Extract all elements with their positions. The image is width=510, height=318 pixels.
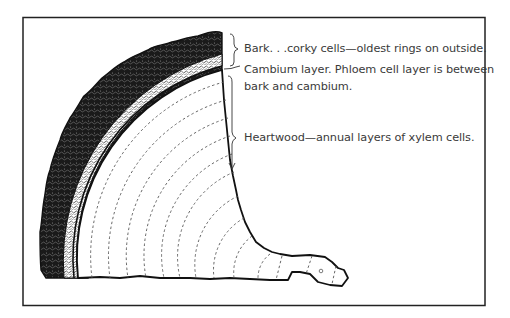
bark-bracket	[230, 34, 238, 66]
heartwood-label: Heartwood—annual layers of xylem cells.	[244, 131, 474, 144]
cambium-pointer	[224, 66, 240, 69]
cambium-label-line2: bark and cambium.	[244, 80, 352, 93]
cambium-label-line1: Cambium layer. Phloem cell layer is betw…	[244, 63, 494, 76]
bark-label: Bark. . .corky cells—oldest rings on out…	[244, 42, 487, 55]
